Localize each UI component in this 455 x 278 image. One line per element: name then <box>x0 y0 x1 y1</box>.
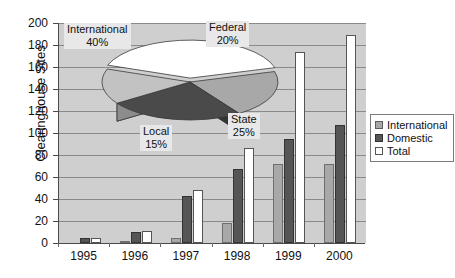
legend-swatch-international-icon <box>375 121 383 129</box>
pie-callout-federal: Federal20% <box>206 21 249 47</box>
x-tick-mark <box>263 243 264 247</box>
pie-callout-local: Local15% <box>140 125 172 151</box>
pie-callout-percent: 20% <box>209 34 246 47</box>
legend-item-total: Total <box>375 144 448 157</box>
x-tick-mark <box>212 243 213 247</box>
legend-swatch-total-icon <box>375 147 383 155</box>
clearinghouse-sites-chart: Clearinghouse Sites 02040608010012014016… <box>0 0 455 278</box>
bar-total-1999 <box>295 52 305 243</box>
bar-domestic-1998 <box>233 169 243 243</box>
y-tick-label: 140 <box>14 84 48 94</box>
y-tick-label: 40 <box>14 194 48 204</box>
pie-callout-percent: 15% <box>143 138 169 151</box>
legend-label: Total <box>387 145 410 157</box>
y-tick-mark <box>53 45 58 46</box>
bar-total-2000 <box>346 35 356 243</box>
y-tick-label: 80 <box>14 150 48 160</box>
y-tick-mark <box>53 177 58 178</box>
legend-swatch-domestic-icon <box>375 134 383 142</box>
pie-callout-international: International40% <box>64 23 131 49</box>
bar-international-1999 <box>273 164 283 243</box>
y-tick-mark <box>53 199 58 200</box>
legend-label: International <box>387 119 448 131</box>
y-tick-label: 100 <box>14 128 48 138</box>
y-tick-label: 160 <box>14 62 48 72</box>
y-tick-mark <box>53 221 58 222</box>
y-tick-mark <box>53 155 58 156</box>
bar-total-1996 <box>142 231 152 243</box>
y-tick-label: 120 <box>14 106 48 116</box>
x-tick-mark <box>160 243 161 247</box>
bar-domestic-2000 <box>335 125 345 243</box>
legend-item-domestic: Domestic <box>375 131 448 144</box>
y-tick-label: 180 <box>14 40 48 50</box>
legend-item-international: International <box>375 118 448 131</box>
pie-callout-name: State <box>231 113 257 125</box>
y-tick-mark <box>53 89 58 90</box>
y-tick-label: 60 <box>14 172 48 182</box>
x-tick-mark <box>314 243 315 247</box>
pie-callout-name: Local <box>143 125 169 137</box>
bar-domestic-1996 <box>131 232 141 243</box>
pie-slice-international <box>108 40 275 78</box>
legend: InternationalDomesticTotal <box>370 114 454 162</box>
legend-label: Domestic <box>387 132 433 144</box>
y-tick-label: 200 <box>14 18 48 28</box>
pie-callout-percent: 40% <box>67 36 128 49</box>
pie-callout-state: State25% <box>228 113 260 139</box>
pie-tops <box>102 40 278 120</box>
bar-total-1997 <box>193 190 203 243</box>
bar-total-1998 <box>244 148 254 243</box>
bar-international-2000 <box>324 164 334 243</box>
y-tick-mark <box>53 23 58 24</box>
x-tick-mark <box>58 243 59 247</box>
y-tick-label: 20 <box>14 216 48 226</box>
pie-callout-name: International <box>67 23 128 35</box>
bar-domestic-1999 <box>284 139 294 244</box>
y-tick-mark <box>53 111 58 112</box>
x-tick-label: 2000 <box>309 249 369 263</box>
y-tick-label: 0 <box>14 238 48 248</box>
bar-international-1998 <box>222 223 232 243</box>
pie-callout-percent: 25% <box>231 126 257 139</box>
y-tick-mark <box>53 133 58 134</box>
bar-domestic-1997 <box>182 196 192 243</box>
y-tick-mark <box>53 67 58 68</box>
pie-callout-name: Federal <box>209 21 246 33</box>
x-tick-mark <box>109 243 110 247</box>
